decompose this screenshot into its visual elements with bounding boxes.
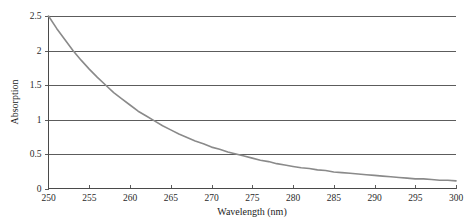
x-tick-label-300: 300 xyxy=(449,193,464,203)
chart-figure: 00.511.522.5 250255260265270275280285290… xyxy=(0,0,473,223)
y-tick-label-1.5: 1.5 xyxy=(30,80,42,90)
y-tick-label-0.5: 0.5 xyxy=(30,149,42,159)
y-tick-label-2.5: 2.5 xyxy=(30,11,42,21)
x-tick-label-265: 265 xyxy=(164,193,179,203)
y-tick-label-1: 1 xyxy=(37,115,42,125)
x-tick-label-290: 290 xyxy=(367,193,382,203)
chart-background xyxy=(0,0,473,223)
y-axis-title: Absorption xyxy=(9,80,20,125)
absorption-spectrum-chart: 00.511.522.5 250255260265270275280285290… xyxy=(0,0,473,223)
x-tick-label-280: 280 xyxy=(286,193,301,203)
x-tick-label-270: 270 xyxy=(204,193,219,203)
x-axis-title: Wavelength (nm) xyxy=(217,206,286,218)
x-tick-label-295: 295 xyxy=(408,193,423,203)
x-tick-label-260: 260 xyxy=(123,193,138,203)
x-tick-label-275: 275 xyxy=(245,193,260,203)
x-tick-label-255: 255 xyxy=(82,193,97,203)
x-tick-label-250: 250 xyxy=(41,193,56,203)
x-tick-label-285: 285 xyxy=(327,193,342,203)
y-tick-label-2: 2 xyxy=(37,46,42,56)
